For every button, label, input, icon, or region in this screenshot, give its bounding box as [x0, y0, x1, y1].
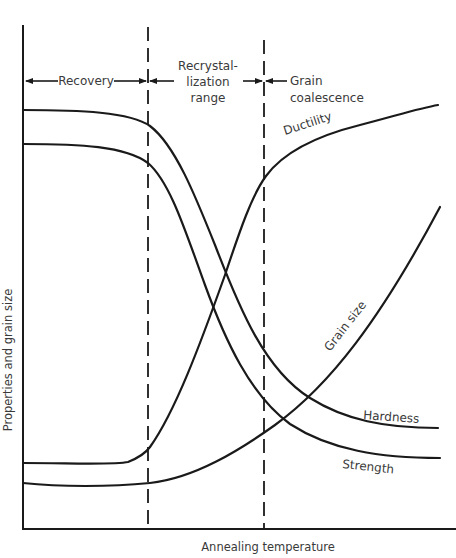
x-axis-label: Annealing temperature [201, 540, 335, 554]
hardness-curve [23, 110, 438, 428]
arrowhead-right-icon [255, 78, 263, 84]
curves [23, 105, 440, 486]
recrystallization-label-line3: range [191, 91, 226, 105]
grain-size-label: Grain size [321, 298, 369, 354]
ductility-label: Ductility [282, 109, 334, 138]
region-labels: Recovery Recrystal- lization range Grain… [58, 59, 364, 105]
recrystallization-label-line1: Recrystal- [178, 59, 238, 73]
coalescence-label-line1: Grain [290, 74, 323, 88]
recovery-label: Recovery [58, 74, 114, 88]
curve-labels: Ductility Grain size Hardness Strength [282, 109, 420, 476]
annealing-diagram: Recovery Recrystal- lization range Grain… [0, 0, 456, 558]
strength-label: Strength [342, 457, 395, 476]
arrowhead-left-icon [149, 78, 157, 84]
y-axis-label: Properties and grain size [1, 289, 15, 432]
arrowhead-left-icon [25, 78, 33, 84]
coalescence-label-line2: coalescence [290, 91, 364, 105]
recrystallization-label-line2: lization [186, 75, 229, 89]
arrowhead-right-icon [139, 78, 147, 84]
arrowhead-left-icon [265, 78, 273, 84]
axes [22, 25, 456, 529]
